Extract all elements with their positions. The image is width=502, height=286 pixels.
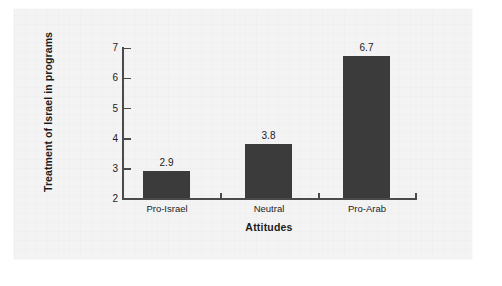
y-tick-6: [124, 78, 131, 80]
bar-value-pro-arab: 6.7: [343, 42, 390, 53]
x-tick-boundary-2: [318, 193, 320, 199]
bar-pro-israel[interactable]: [143, 171, 190, 198]
y-tick-5: [124, 108, 131, 110]
x-category-label-neutral: Neutral: [235, 203, 303, 214]
bar-pro-arab[interactable]: [343, 56, 390, 198]
x-axis-title: Attitudes: [122, 221, 416, 233]
x-category-label-pro-arab: Pro-Arab: [333, 203, 401, 214]
y-tick-7: [124, 48, 131, 50]
bar-neutral[interactable]: [245, 144, 292, 198]
bar-chart: Treatment of Israel in programs 7 6 5 4 …: [14, 9, 472, 259]
y-tick-label-2: 2: [102, 193, 118, 204]
x-axis-endcap: [415, 193, 417, 200]
y-axis-line: [122, 47, 124, 199]
y-axis-title: Treatment of Israel in programs: [42, 32, 54, 192]
y-tick-label-5: 5: [102, 103, 118, 114]
x-axis-line: [122, 198, 416, 200]
y-tick-label-6: 6: [102, 72, 118, 83]
y-tick-label-7: 7: [102, 42, 118, 53]
y-tick-4: [124, 138, 131, 140]
bar-value-pro-israel: 2.9: [143, 157, 190, 168]
screenshot-root: Treatment of Israel in programs 7 6 5 4 …: [0, 0, 502, 286]
y-tick-label-3: 3: [102, 163, 118, 174]
bar-value-neutral: 3.8: [245, 130, 292, 141]
y-tick-3: [124, 168, 131, 170]
x-category-label-pro-israel: Pro-Israel: [133, 203, 201, 214]
x-tick-boundary-1: [220, 193, 222, 199]
figure-panel: Treatment of Israel in programs 7 6 5 4 …: [14, 9, 472, 259]
y-tick-label-4: 4: [102, 133, 118, 144]
